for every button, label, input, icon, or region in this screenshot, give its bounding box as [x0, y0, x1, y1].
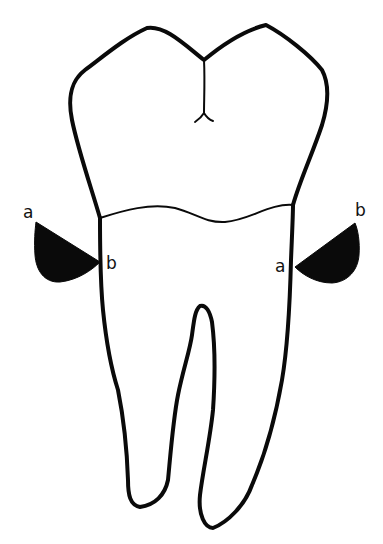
tooth-diagram: a b b a	[0, 0, 383, 544]
left-wedge	[35, 222, 100, 282]
tooth-drawing	[0, 0, 383, 544]
left-wedge-label-a: a	[23, 204, 33, 221]
right-wedge-label-a: a	[275, 258, 285, 275]
right-wedge-label-b: b	[355, 202, 366, 219]
root-outline	[100, 205, 293, 528]
crown-outline	[70, 25, 327, 218]
central-fissure	[195, 60, 213, 122]
left-wedge-label-b: b	[106, 255, 117, 272]
right-wedge	[295, 223, 359, 283]
cementoenamel-junction	[100, 205, 293, 222]
